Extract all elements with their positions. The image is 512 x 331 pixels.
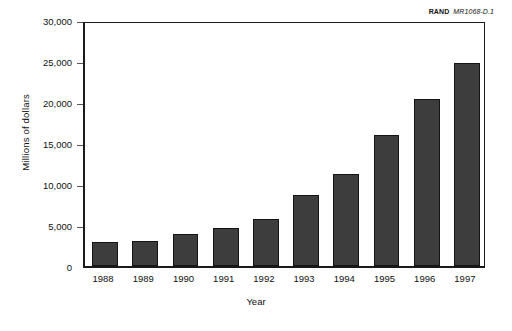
y-axis-tick-label: 0 — [67, 262, 72, 273]
y-axis-tick-label: 30,000 — [43, 16, 72, 27]
x-axis-title: Year — [0, 296, 512, 307]
bar-1992 — [253, 219, 279, 266]
y-axis-title: Millions of dollars — [20, 94, 34, 171]
plot-area — [83, 22, 485, 268]
x-axis-tick-label: 1990 — [163, 273, 203, 284]
y-axis-tick-label: 20,000 — [43, 98, 72, 109]
credit-organization: RAND — [429, 8, 450, 15]
bar-1996 — [414, 99, 440, 266]
x-axis-tick-label: 1988 — [83, 273, 123, 284]
bar-1993 — [293, 195, 319, 266]
bar-1991 — [213, 228, 239, 266]
credit-document-id: MR1068-D.1 — [453, 8, 494, 15]
bar-1988 — [92, 242, 118, 266]
bar-1994 — [333, 174, 359, 266]
bar-1995 — [374, 135, 400, 266]
bar-1997 — [454, 63, 480, 266]
bar-1989 — [132, 241, 158, 266]
x-axis-tick-label: 1992 — [244, 273, 284, 284]
y-axis-tick-label: 25,000 — [43, 57, 72, 68]
bar-1990 — [173, 234, 199, 266]
x-axis-tick-label: 1996 — [405, 273, 445, 284]
rand-credit-line: RANDMR1068-D.1 — [429, 8, 494, 15]
y-axis-tick-label: 15,000 — [43, 139, 72, 150]
y-axis-tick-label: 5,000 — [48, 221, 72, 232]
x-axis-tick-label: 1991 — [204, 273, 244, 284]
x-axis-tick-label: 1993 — [284, 273, 324, 284]
bar-chart-figure: RANDMR1068-D.1 Millions of dollars 05,00… — [0, 0, 512, 331]
x-axis-tick-label: 1997 — [445, 273, 485, 284]
y-axis-tick-label: 10,000 — [43, 180, 72, 191]
x-axis-tick-label: 1994 — [324, 273, 364, 284]
x-axis-tick-label: 1989 — [123, 273, 163, 284]
x-axis-tick-label: 1995 — [364, 273, 404, 284]
